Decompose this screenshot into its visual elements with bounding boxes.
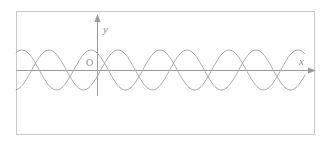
figure-border [17,12,315,135]
sine-curve-2 [16,50,305,90]
sine-curve-1 [16,50,305,90]
origin-label: O [86,57,93,68]
graph-figure: y x O [0,0,331,146]
x-axis-label: x [298,55,304,67]
figure-root: y x O [0,0,331,146]
y-axis-arrowhead [94,14,100,22]
y-axis-label: y [102,23,108,35]
